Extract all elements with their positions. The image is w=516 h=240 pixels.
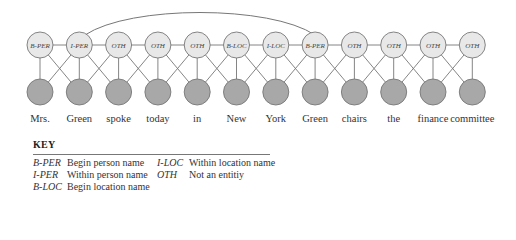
key-item-b-per: B-PERBegin person name (33, 157, 144, 169)
word-node (224, 79, 250, 105)
tag-label: B-LOC (226, 42, 247, 50)
tag-label: OTH (190, 42, 205, 50)
word-label: the (387, 113, 400, 124)
word-label: spoke (106, 113, 131, 124)
tag-label: B-PER (30, 42, 50, 50)
word-node (66, 79, 92, 105)
word-node (106, 79, 132, 105)
word-label: finance (418, 113, 449, 124)
word-node (420, 79, 446, 105)
key-abbr: I-PER (33, 169, 67, 181)
tag-label: OTH (151, 42, 166, 50)
graph-edges (40, 45, 472, 92)
word-node (145, 79, 171, 105)
word-label: Green (66, 113, 92, 124)
tag-label: OTH (112, 42, 127, 50)
word-node (381, 79, 407, 105)
word-label: York (266, 113, 287, 124)
key-item-i-per: I-PERWithin person name (33, 169, 148, 181)
word-label: in (193, 113, 202, 124)
word-node (302, 79, 328, 105)
tag-label: OTH (426, 42, 441, 50)
key-abbr: I-LOC (157, 157, 189, 169)
key-desc: Begin location name (67, 181, 150, 192)
tag-label: OTH (347, 42, 362, 50)
word-node (27, 79, 53, 105)
key-title: KEY (33, 139, 56, 150)
graph-nodes: B-PERMrs.I-PERGreenOTHspokeOTHtodayOTHin… (27, 32, 495, 124)
key-desc: Within person name (67, 169, 148, 180)
word-node (459, 79, 485, 105)
key-divider (33, 154, 270, 155)
word-label: Green (302, 113, 328, 124)
word-label: today (146, 113, 170, 124)
key-item-i-loc: I-LOCWithin location name (157, 157, 275, 169)
word-node (184, 79, 210, 105)
word-node (263, 79, 289, 105)
key-item-b-loc: B-LOCBegin location name (33, 181, 150, 193)
tag-label: I-LOC (266, 42, 286, 50)
word-label: committee (450, 113, 495, 124)
key-abbr: B-PER (33, 157, 67, 169)
key-item-oth: OTHNot an entitiy (157, 169, 244, 181)
tag-label: OTH (465, 42, 480, 50)
key-desc: Begin person name (67, 157, 144, 168)
tag-label: B-PER (305, 42, 325, 50)
key-desc: Not an entitiy (189, 169, 244, 180)
tag-label: OTH (387, 42, 402, 50)
word-label: chairs (342, 113, 367, 124)
word-label: New (227, 113, 247, 124)
key-desc: Within location name (189, 157, 275, 168)
key-abbr: B-LOC (33, 181, 67, 193)
tag-label: I-PER (70, 42, 89, 50)
key-abbr: OTH (157, 169, 189, 181)
word-node (341, 79, 367, 105)
word-label: Mrs. (30, 113, 50, 124)
